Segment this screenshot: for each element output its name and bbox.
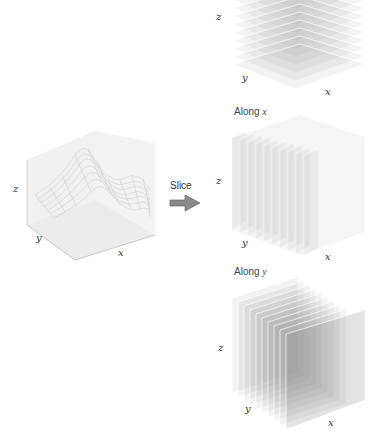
y-slices-graphic bbox=[0, 0, 373, 434]
y-slices-x-axis-label: x bbox=[328, 417, 334, 428]
y-slices-y-axis-label: y bbox=[245, 403, 251, 414]
y-slices-z-axis-label: z bbox=[218, 342, 223, 353]
